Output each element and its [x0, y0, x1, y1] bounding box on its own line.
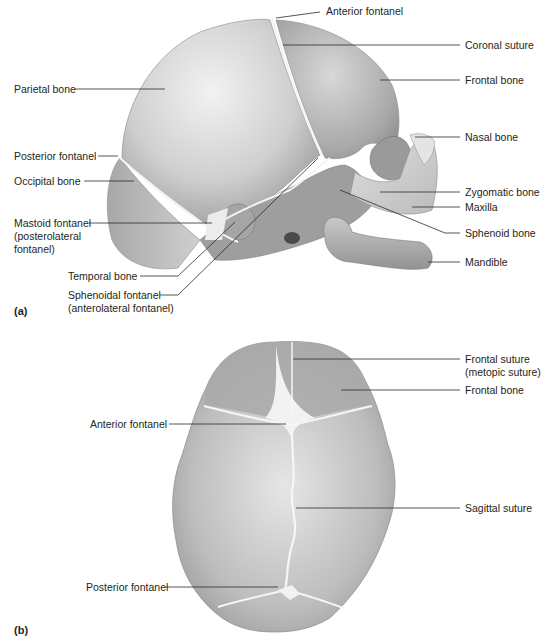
mandible-shape — [324, 217, 433, 269]
label-anterior-fontanel-b: Anterior fontanel — [90, 418, 167, 430]
label-maxilla: Maxilla — [465, 201, 498, 213]
label-occipital-bone: Occipital bone — [14, 175, 81, 187]
label-sagittal-suture: Sagittal suture — [465, 502, 532, 514]
label-nasal-bone: Nasal bone — [465, 131, 518, 143]
skull-illustration — [0, 0, 551, 644]
panel-tag-a: (a) — [14, 305, 27, 317]
label-posterior-fontanel-a: Posterior fontanel — [14, 150, 96, 162]
label-anterior-fontanel-a: Anterior fontanel — [326, 5, 403, 17]
label-posterior-fontanel-b: Posterior fontanel — [86, 581, 168, 593]
label-sphenoidal-fontanel: Sphenoidal fontanel — [68, 289, 161, 301]
superior-skull — [166, 342, 460, 632]
label-frontal-bone-a: Frontal bone — [465, 74, 524, 86]
lateral-skull — [75, 12, 460, 295]
panel-tag-b: (b) — [14, 624, 28, 636]
label-mandible: Mandible — [465, 256, 508, 268]
label-parietal-bone: Parietal bone — [14, 83, 76, 95]
label-coronal-suture: Coronal suture — [465, 39, 534, 51]
label-mastoid-fontanel: Mastoid fontanel — [14, 217, 91, 229]
label-frontal-suture: Frontal suture — [465, 353, 530, 365]
label-sphenoid-bone: Sphenoid bone — [465, 227, 536, 239]
ear-canal-shape — [284, 232, 300, 244]
label-mastoid-fontanel-alt-2: fontanel) — [14, 243, 55, 255]
label-frontal-suture-alt: (metopic suture) — [465, 366, 541, 378]
label-frontal-bone-b: Frontal bone — [465, 384, 524, 396]
label-mastoid-fontanel-alt-1: (posterolateral — [14, 230, 81, 242]
label-zygomatic-bone: Zygomatic bone — [465, 186, 540, 198]
label-sphenoidal-fontanel-alt: (anterolateral fontanel) — [68, 302, 174, 314]
label-temporal-bone: Temporal bone — [68, 270, 137, 282]
